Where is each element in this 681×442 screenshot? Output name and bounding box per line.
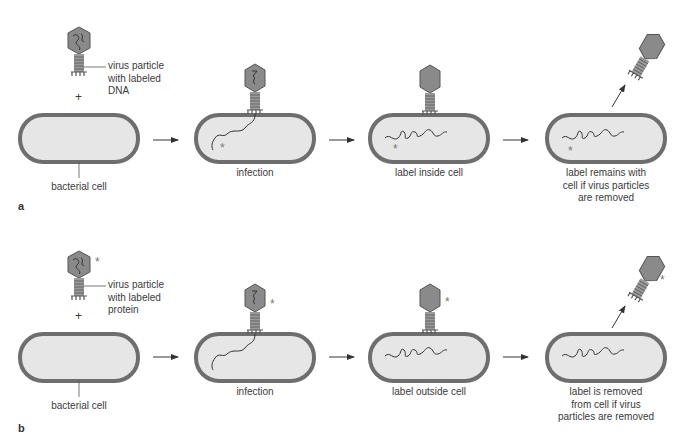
bacterial-cell (370, 334, 488, 381)
plus-sign: + (75, 310, 82, 323)
virus-label-line: virus particle (108, 279, 164, 292)
plus-sign: + (75, 91, 82, 104)
bacterial-cell (547, 115, 665, 162)
step-label: infection (205, 386, 305, 399)
bacterial-cell-label: bacterial cell (29, 400, 129, 413)
label-marker: * (220, 141, 225, 155)
bacterial-cell (20, 334, 138, 381)
bacterial-cell (547, 334, 665, 381)
step-label-line: label remains with (541, 167, 671, 180)
diagram-canvas: * * * * (0, 0, 681, 442)
panel-letter-a: a (18, 200, 24, 212)
step-label-line: label is removed (541, 386, 671, 399)
virus-particle-icon (245, 284, 265, 334)
bacterial-cell (196, 115, 314, 162)
bacterial-cell (370, 115, 488, 162)
svg-text:*: * (660, 273, 665, 287)
bacterial-cell (20, 115, 138, 162)
svg-text:*: * (393, 142, 398, 156)
svg-text:*: * (445, 295, 450, 309)
panel-a: * * * (20, 27, 668, 178)
virus-label-line: protein (108, 304, 164, 317)
step-label: label inside cell (379, 167, 479, 180)
virus-label-b: virus particle with labeled protein (108, 279, 164, 317)
virus-particle-icon (420, 284, 440, 334)
step-label: label is removed from cell if virus part… (541, 386, 671, 424)
virus-label-line: with labeled (108, 73, 164, 86)
virus-particle-icon (245, 64, 265, 114)
panel-b: * * * * (20, 251, 668, 397)
panel-letter-b: b (18, 422, 25, 434)
released-virus-icon (625, 29, 667, 82)
step-label: label remains with cell if virus particl… (541, 167, 671, 205)
step-label: label outside cell (379, 386, 479, 399)
step-label-line: from cell if virus (541, 399, 671, 412)
virus-particle-icon (420, 65, 440, 115)
virus-particle-icon (68, 27, 90, 76)
virus-label-line: with labeled (108, 292, 164, 305)
virus-label-line: virus particle (108, 60, 164, 73)
bacterial-cell (196, 334, 314, 381)
step-label: infection (205, 167, 305, 180)
virus-label-line: DNA (108, 85, 164, 98)
bacterial-cell-label: bacterial cell (29, 181, 129, 194)
virus-label-a: virus particle with labeled DNA (108, 60, 164, 98)
svg-text:*: * (95, 255, 100, 269)
virus-particle-icon (68, 251, 90, 300)
svg-text:*: * (568, 144, 573, 158)
step-label-line: particles are removed (541, 411, 671, 424)
step-label-line: cell if virus particles (541, 180, 671, 193)
svg-text:*: * (270, 297, 275, 311)
step-label-line: are removed (541, 192, 671, 205)
